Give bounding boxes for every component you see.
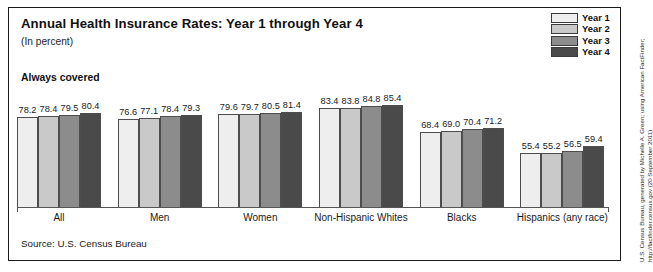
bar-year-4 <box>281 112 302 207</box>
bar-year-2 <box>38 116 59 207</box>
legend-swatch-2 <box>551 24 578 34</box>
bar-groups: 78.278.479.580.476.677.178.479.379.679.7… <box>17 90 609 207</box>
bar-slot: 56.5 <box>562 90 583 207</box>
category-label-all: All <box>53 212 64 223</box>
bar-value-label: 79.7 <box>241 102 259 112</box>
category-label-hispanics-any-race: Hispanics (any race) <box>517 212 608 223</box>
bar-year-4 <box>583 146 604 207</box>
bar-year-2 <box>541 153 562 207</box>
bar-slot: 70.4 <box>462 90 483 207</box>
bar-year-1 <box>319 108 340 207</box>
side-credit-line1: U.S. Census Bureau, generated by Michell… <box>638 39 645 262</box>
bar-slot: 80.4 <box>80 90 101 207</box>
legend-label: Year 2 <box>582 24 610 34</box>
legend-item: Year 2 <box>551 24 613 35</box>
bar-value-label: 71.2 <box>484 116 502 126</box>
legend-label: Year 3 <box>582 36 610 46</box>
page-title: Annual Health Insurance Rates: Year 1 th… <box>21 16 363 31</box>
side-credit: U.S. Census Bureau, generated by Michell… <box>626 0 653 272</box>
category-label-men: Men <box>150 212 169 223</box>
bar-slot: 79.7 <box>239 90 260 207</box>
series-note: Always covered <box>21 72 100 83</box>
category-label-non-hispanic-whites: Non-Hispanic Whites <box>314 212 407 223</box>
bar-value-label: 83.4 <box>321 96 339 106</box>
legend-swatch-3 <box>551 36 578 46</box>
bar-value-label: 80.5 <box>262 101 280 111</box>
bar-value-label: 59.4 <box>585 134 603 144</box>
chart-subtitle: (In percent) <box>21 36 73 47</box>
x-axis-line <box>17 207 609 208</box>
bar-slot: 68.4 <box>420 90 441 207</box>
legend-item: Year 4 <box>551 47 613 58</box>
legend-label: Year 4 <box>582 47 610 57</box>
bar-slot: 77.1 <box>139 90 160 207</box>
bar-slot: 85.4 <box>382 90 403 207</box>
bar-year-2 <box>239 114 260 207</box>
bar-value-label: 70.4 <box>463 117 481 127</box>
bar-value-label: 56.5 <box>564 139 582 149</box>
bar-value-label: 55.4 <box>522 141 540 151</box>
bar-year-3 <box>462 129 483 207</box>
bar-value-label: 79.6 <box>220 102 238 112</box>
bar-value-label: 77.1 <box>140 106 158 116</box>
bar-slot: 69.0 <box>441 90 462 207</box>
bar-value-label: 78.2 <box>19 105 37 115</box>
legend-item: Year 1 <box>551 12 613 23</box>
bar-group-women: 79.679.780.581.4 <box>218 90 302 207</box>
bar-slot: 59.4 <box>583 90 604 207</box>
bar-slot: 55.4 <box>520 90 541 207</box>
bar-slot: 81.4 <box>281 90 302 207</box>
chart-legend: Year 1Year 2Year 3Year 4 <box>551 12 613 58</box>
bar-group-hispanics-any-race: 55.455.256.559.4 <box>520 90 604 207</box>
bar-value-label: 78.4 <box>161 104 179 114</box>
bar-value-label: 76.6 <box>119 107 137 117</box>
bar-year-1 <box>218 114 239 207</box>
legend-swatch-4 <box>551 47 578 57</box>
bar-year-3 <box>361 106 382 207</box>
bar-slot: 79.5 <box>59 90 80 207</box>
category-label-blacks: Blacks <box>447 212 476 223</box>
bar-slot: 83.8 <box>340 90 361 207</box>
bar-slot: 78.4 <box>160 90 181 207</box>
bar-year-3 <box>160 116 181 207</box>
bar-slot: 84.8 <box>361 90 382 207</box>
bar-value-label: 79.5 <box>61 103 79 113</box>
bar-year-3 <box>260 113 281 207</box>
bar-value-label: 79.3 <box>182 103 200 113</box>
bar-group-non-hispanic-whites: 83.483.884.885.4 <box>319 90 403 207</box>
bar-group-all: 78.278.479.580.4 <box>17 90 101 207</box>
bar-value-label: 81.4 <box>283 100 301 110</box>
legend-item: Year 3 <box>551 35 613 46</box>
category-axis-labels: AllMenWomenNon-Hispanic WhitesBlacksHisp… <box>17 212 609 228</box>
source-note: Source: U.S. Census Bureau <box>21 238 147 249</box>
bar-year-2 <box>139 118 160 207</box>
bar-year-3 <box>59 115 80 207</box>
bar-value-label: 78.4 <box>40 104 58 114</box>
bar-slot: 79.6 <box>218 90 239 207</box>
bar-slot: 71.2 <box>483 90 504 207</box>
bar-group-men: 76.677.178.479.3 <box>118 90 202 207</box>
bar-value-label: 85.4 <box>384 93 402 103</box>
bar-slot: 76.6 <box>118 90 139 207</box>
legend-label: Year 1 <box>582 13 610 23</box>
bar-value-label: 68.4 <box>421 120 439 130</box>
bar-year-3 <box>562 151 583 207</box>
bar-year-1 <box>118 119 139 207</box>
bar-slot: 55.2 <box>541 90 562 207</box>
bar-group-blacks: 68.469.070.471.2 <box>420 90 504 207</box>
category-label-women: Women <box>243 212 277 223</box>
bar-slot: 83.4 <box>319 90 340 207</box>
bar-year-4 <box>181 115 202 207</box>
bar-year-1 <box>520 153 541 207</box>
bar-year-4 <box>80 113 101 207</box>
bar-slot: 79.3 <box>181 90 202 207</box>
bar-year-1 <box>420 132 441 207</box>
bar-year-4 <box>382 105 403 207</box>
bar-year-2 <box>340 108 361 207</box>
bar-slot: 78.4 <box>38 90 59 207</box>
legend-swatch-1 <box>551 13 578 23</box>
bar-year-1 <box>17 117 38 207</box>
bar-slot: 78.2 <box>17 90 38 207</box>
bar-value-label: 69.0 <box>442 119 460 129</box>
chart-screenshot: Annual Health Insurance Rates: Year 1 th… <box>0 0 653 272</box>
